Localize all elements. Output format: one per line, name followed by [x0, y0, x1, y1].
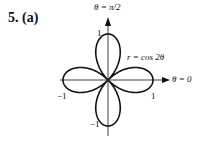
tick-top: 1: [97, 28, 102, 38]
curve-label: r = cos 2θ: [127, 52, 164, 62]
tick-left: −1: [57, 91, 67, 101]
right-axis-label: θ = 0: [172, 74, 192, 84]
tick-right: 1: [151, 91, 156, 101]
top-axis-label: θ = π/2: [94, 2, 121, 12]
y-axis-arrow-icon: [105, 17, 111, 26]
x-axis-arrow-icon: [162, 77, 170, 83]
tick-bottom: −1: [90, 119, 100, 129]
